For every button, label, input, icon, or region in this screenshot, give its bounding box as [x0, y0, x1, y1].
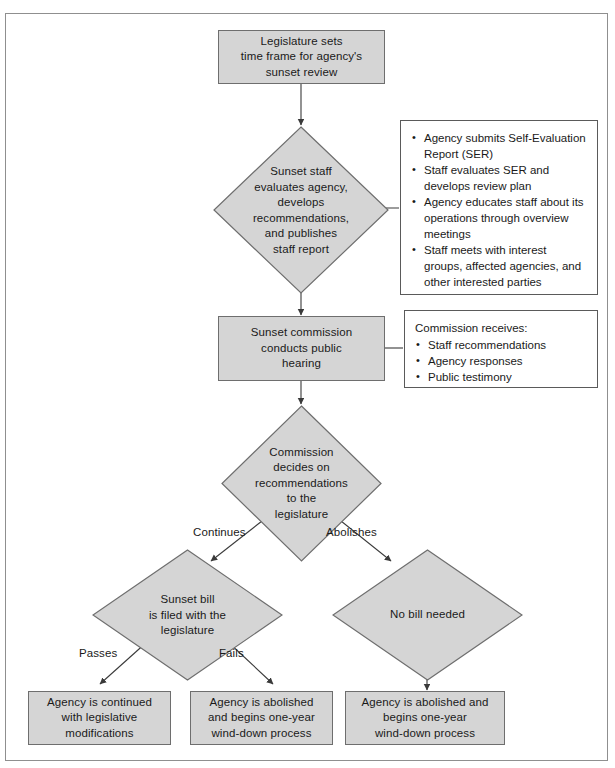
node-agency-abolished-mid: Agency is abolished and begins one-year … [190, 691, 333, 745]
node-legislature-sets-time-frame: Legislature sets time frame for agency's… [218, 30, 385, 84]
node-sunset-staff-evaluates: Sunset staff evaluates agency, develops … [213, 126, 389, 294]
list-item: Agency educates staff about its operatio… [411, 194, 587, 242]
list-item: Staff evaluates SER and develops review … [411, 162, 587, 194]
edge-label-passes: Passes [79, 647, 117, 659]
flowchart-canvas: Legislature sets time frame for agency's… [0, 0, 615, 768]
list-item: Public testimony [415, 369, 587, 385]
node-sunset-staff-label: Sunset staff evaluates agency, develops … [213, 164, 389, 257]
staff-activities-list: Agency submits Self-Evaluation Report (S… [411, 130, 587, 290]
list-item: Agency responses [415, 353, 587, 369]
node-public-hearing-label: Sunset commission conducts public hearin… [245, 325, 358, 372]
commission-receives-list: Staff recommendations Agency responses P… [415, 337, 587, 385]
node-commission-decides-label: Commission decides on recommendations to… [221, 445, 382, 523]
list-item: Agency submits Self-Evaluation Report (S… [411, 130, 587, 162]
edge-label-continues: Continues [193, 526, 246, 538]
node-agency-abolished-right: Agency is abolished and begins one-year … [345, 691, 505, 745]
node-agency-abolished-right-label: Agency is abolished and begins one-year … [356, 695, 495, 742]
node-no-bill-label: No bill needed [332, 607, 523, 623]
node-agency-continued-label: Agency is continued with legislative mod… [41, 695, 158, 742]
node-public-hearing: Sunset commission conducts public hearin… [218, 316, 385, 381]
node-agency-abolished-mid-label: Agency is abolished and begins one-year … [202, 695, 321, 742]
commission-receives-heading: Commission receives: [415, 320, 587, 336]
node-sunset-bill-label: Sunset bill is filed with the legislatur… [92, 592, 283, 639]
edge-label-abolishes: Abolishes [326, 526, 377, 538]
node-legislature-label: Legislature sets time frame for agency's… [235, 34, 368, 81]
node-commission-decides: Commission decides on recommendations to… [221, 405, 382, 562]
panel-staff-activities: Agency submits Self-Evaluation Report (S… [400, 120, 598, 295]
list-item: Staff recommendations [415, 337, 587, 353]
edge-label-fails: Fails [219, 647, 244, 659]
node-agency-continued: Agency is continued with legislative mod… [28, 691, 171, 745]
list-item: Staff meets with interest groups, affect… [411, 242, 587, 290]
panel-commission-receives: Commission receives: Staff recommendatio… [404, 310, 598, 388]
node-sunset-bill-filed: Sunset bill is filed with the legislatur… [92, 549, 283, 681]
node-no-bill-needed: No bill needed [332, 549, 523, 681]
